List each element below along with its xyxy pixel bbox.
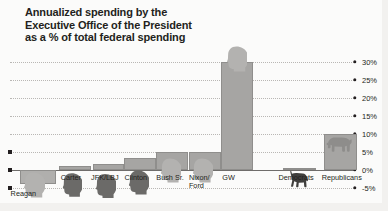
axis-label-25: 25% — [362, 76, 377, 85]
chart-container: Annualized spending by the Executive Off… — [0, 0, 388, 211]
category-label-carter: Carter — [61, 174, 81, 182]
president-head-silhouette-icon — [159, 154, 181, 187]
category-label-democrats: Democrats — [278, 174, 313, 182]
axis-label-30: 30% — [362, 58, 377, 67]
axis-tick-dot — [353, 78, 356, 81]
elephant-icon — [326, 134, 355, 156]
president-head-silhouette-icon — [127, 166, 149, 199]
axis-label-10: 10% — [362, 130, 377, 139]
category-label-nixonford: Nixon/ Ford — [189, 174, 210, 190]
axis-tick-dot — [353, 60, 356, 63]
bottom-border-strip — [0, 203, 388, 211]
category-label-bushsr: Bush Sr. — [156, 174, 184, 182]
category-label-gw: GW — [222, 174, 235, 182]
president-head-silhouette-icon — [225, 42, 248, 76]
axis-label-neg5: -5% — [362, 184, 375, 193]
bar-gw — [221, 62, 253, 170]
category-label-republicans: Republicans — [322, 174, 362, 182]
gridline-20 — [10, 98, 354, 99]
gridline-10 — [10, 134, 354, 135]
axis-tick-dot — [353, 96, 356, 99]
left-tick-marker — [8, 150, 12, 154]
right-border-strip — [382, 0, 388, 211]
category-label-jfklbj: JFK/LBJ — [91, 174, 119, 182]
category-label-clinton: Clinton — [124, 174, 147, 182]
category-label-reagan: Reagan — [11, 190, 37, 198]
axis-tick-dot — [353, 186, 356, 189]
axis-label-20: 20% — [362, 94, 377, 103]
gridline-15 — [10, 116, 354, 117]
gridline-25 — [10, 80, 354, 81]
page-title: Annualized spending by the Executive Off… — [25, 6, 235, 44]
gridline-30 — [10, 62, 354, 63]
axis-label-0: 0% — [362, 166, 373, 175]
left-tick-marker — [8, 168, 12, 172]
axis-tick-dot — [353, 114, 356, 117]
axis-label-5: 5% — [362, 148, 373, 157]
axis-label-15: 15% — [362, 112, 377, 121]
